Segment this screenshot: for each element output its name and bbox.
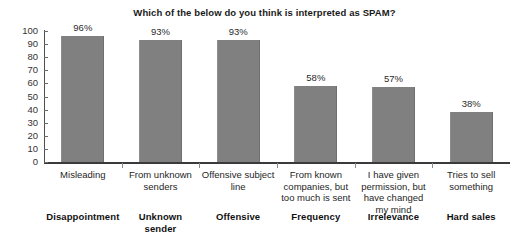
category-label: I have given permission, but have change… bbox=[357, 169, 431, 215]
bar-value-label: 96% bbox=[73, 22, 92, 33]
bar bbox=[372, 87, 415, 162]
chart-title: Which of the below do you think is inter… bbox=[0, 7, 529, 18]
group-label: Frequency bbox=[278, 211, 354, 223]
group-label: Hard sales bbox=[433, 211, 509, 223]
bar-value-label: 58% bbox=[306, 72, 325, 83]
x-axis-tick bbox=[199, 163, 200, 168]
y-axis-tick-label: 100 bbox=[0, 26, 38, 36]
y-axis-tick-label: 50 bbox=[0, 92, 38, 102]
group-label: Unknown sender bbox=[123, 211, 199, 234]
x-axis-tick bbox=[432, 163, 433, 168]
group-label: Disappointment bbox=[45, 211, 121, 223]
y-axis-tick-label: 20 bbox=[0, 131, 38, 141]
category-label: Misleading bbox=[46, 169, 120, 181]
y-axis-tick-label: 30 bbox=[0, 118, 38, 128]
y-axis-tick-label: 90 bbox=[0, 39, 38, 49]
bar bbox=[217, 40, 260, 162]
category-label: Tries to sell something bbox=[434, 169, 508, 192]
x-axis-tick bbox=[355, 163, 356, 168]
bar bbox=[139, 40, 182, 162]
bar-value-label: 93% bbox=[151, 26, 170, 37]
y-axis-tick-label: 40 bbox=[0, 105, 38, 115]
y-axis-tick-label: 60 bbox=[0, 79, 38, 89]
y-axis-tick-label: 0 bbox=[0, 157, 38, 167]
plot-area bbox=[44, 31, 510, 162]
category-label: Offensive subject line bbox=[201, 169, 275, 192]
y-axis-tick-label: 80 bbox=[0, 52, 38, 62]
category-label: From known companies, but too much is se… bbox=[279, 169, 353, 204]
bar bbox=[61, 36, 104, 162]
y-axis-tick bbox=[44, 162, 48, 163]
bar bbox=[450, 112, 493, 162]
group-label: Irrelevance bbox=[356, 211, 432, 223]
bar-value-label: 93% bbox=[229, 26, 248, 37]
x-axis-tick bbox=[277, 163, 278, 168]
spam-bar-chart: Which of the below do you think is inter… bbox=[0, 0, 529, 246]
y-axis-tick-label: 70 bbox=[0, 66, 38, 76]
x-axis-tick bbox=[122, 163, 123, 168]
category-label: From unknown senders bbox=[124, 169, 198, 192]
bar bbox=[294, 86, 337, 162]
y-axis-tick-label: 10 bbox=[0, 144, 38, 154]
bar-value-label: 57% bbox=[384, 73, 403, 84]
bar-value-label: 38% bbox=[462, 98, 481, 109]
group-label: Offensive bbox=[200, 211, 276, 223]
